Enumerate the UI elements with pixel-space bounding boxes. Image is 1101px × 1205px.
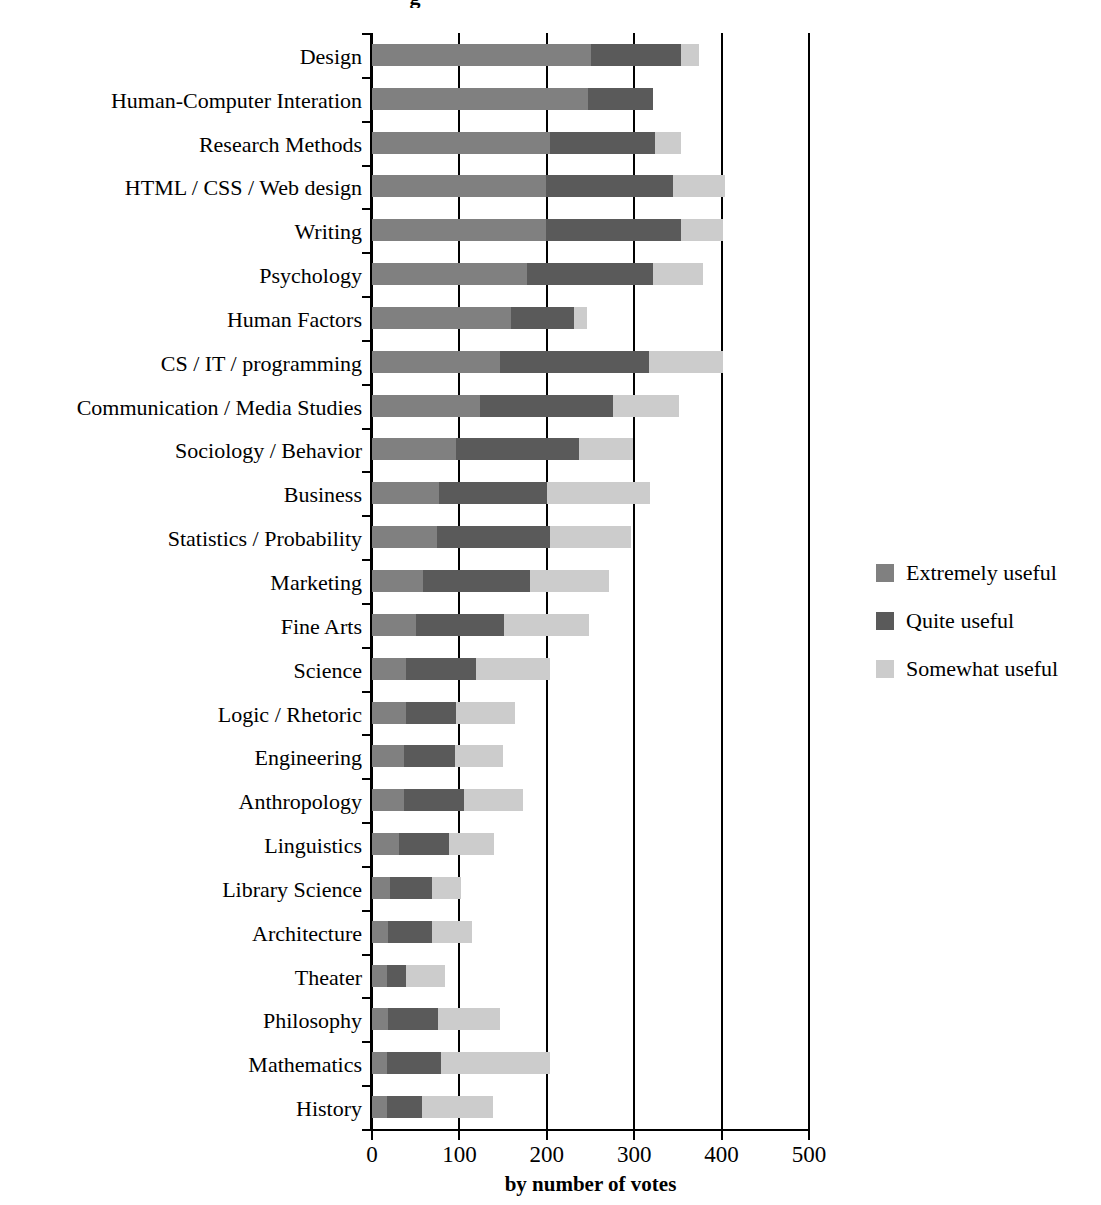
bar-segment[interactable]: [527, 263, 654, 285]
legend-item[interactable]: Somewhat useful: [876, 656, 1101, 682]
bar-segment[interactable]: [371, 833, 399, 855]
bar-segment[interactable]: [673, 175, 725, 197]
bar-segment[interactable]: [371, 132, 550, 154]
bar-segment[interactable]: [388, 1008, 438, 1030]
bar-segment[interactable]: [387, 1052, 441, 1074]
bar-segment[interactable]: [456, 702, 515, 724]
bar-group[interactable]: [371, 570, 609, 592]
bar-segment[interactable]: [500, 351, 649, 373]
bar-group[interactable]: [371, 789, 523, 811]
bar-group[interactable]: [371, 482, 650, 504]
bar-group[interactable]: [371, 219, 723, 241]
bar-segment[interactable]: [455, 745, 503, 767]
bar-segment[interactable]: [371, 219, 546, 241]
bar-segment[interactable]: [371, 614, 416, 636]
bar-segment[interactable]: [371, 921, 388, 943]
bar-segment[interactable]: [437, 526, 551, 548]
bar-segment[interactable]: [550, 132, 655, 154]
bar-segment[interactable]: [591, 44, 681, 66]
bar-group[interactable]: [371, 88, 653, 110]
bar-group[interactable]: [371, 877, 461, 899]
bar-segment[interactable]: [530, 570, 609, 592]
bar-segment[interactable]: [406, 965, 445, 987]
bar-group[interactable]: [371, 1008, 500, 1030]
bar-group[interactable]: [371, 702, 515, 724]
bar-segment[interactable]: [613, 395, 679, 417]
bar-segment[interactable]: [371, 745, 404, 767]
bar-group[interactable]: [371, 526, 631, 548]
bar-group[interactable]: [371, 307, 587, 329]
bar-segment[interactable]: [371, 1096, 387, 1118]
bar-segment[interactable]: [438, 1008, 500, 1030]
bar-segment[interactable]: [588, 88, 654, 110]
bar-segment[interactable]: [371, 789, 404, 811]
bar-group[interactable]: [371, 921, 472, 943]
bar-segment[interactable]: [432, 921, 471, 943]
bar-segment[interactable]: [422, 1096, 494, 1118]
bar-segment[interactable]: [387, 965, 406, 987]
bar-segment[interactable]: [476, 658, 550, 680]
bar-segment[interactable]: [681, 219, 723, 241]
bar-segment[interactable]: [371, 175, 546, 197]
bar-segment[interactable]: [441, 1052, 550, 1074]
bar-segment[interactable]: [371, 877, 390, 899]
bar-group[interactable]: [371, 263, 703, 285]
bar-segment[interactable]: [456, 438, 579, 460]
bar-group[interactable]: [371, 1096, 493, 1118]
bar-segment[interactable]: [439, 482, 547, 504]
bar-segment[interactable]: [371, 526, 437, 548]
bar-segment[interactable]: [504, 614, 590, 636]
bar-segment[interactable]: [464, 789, 523, 811]
bar-segment[interactable]: [371, 88, 588, 110]
bar-segment[interactable]: [371, 395, 480, 417]
bar-segment[interactable]: [579, 438, 633, 460]
bar-segment[interactable]: [480, 395, 613, 417]
bar-segment[interactable]: [574, 307, 587, 329]
bar-segment[interactable]: [371, 438, 456, 460]
bar-segment[interactable]: [655, 132, 681, 154]
bar-segment[interactable]: [681, 44, 698, 66]
bar-segment[interactable]: [406, 658, 476, 680]
bar-segment[interactable]: [399, 833, 449, 855]
bar-group[interactable]: [371, 351, 723, 373]
bar-group[interactable]: [371, 132, 681, 154]
bar-segment[interactable]: [546, 219, 681, 241]
bar-segment[interactable]: [416, 614, 503, 636]
bar-segment[interactable]: [371, 658, 406, 680]
bar-segment[interactable]: [390, 877, 432, 899]
bar-segment[interactable]: [550, 526, 630, 548]
bar-group[interactable]: [371, 833, 494, 855]
bar-group[interactable]: [371, 175, 725, 197]
bar-segment[interactable]: [371, 965, 387, 987]
bar-segment[interactable]: [371, 263, 527, 285]
bar-segment[interactable]: [371, 1052, 387, 1074]
bar-group[interactable]: [371, 745, 503, 767]
bar-group[interactable]: [371, 1052, 550, 1074]
legend-item[interactable]: Quite useful: [876, 608, 1101, 634]
bar-group[interactable]: [371, 965, 445, 987]
bar-segment[interactable]: [371, 702, 406, 724]
bar-group[interactable]: [371, 44, 699, 66]
bar-segment[interactable]: [423, 570, 530, 592]
bar-segment[interactable]: [387, 1096, 422, 1118]
bar-segment[interactable]: [432, 877, 461, 899]
bar-group[interactable]: [371, 438, 633, 460]
bar-segment[interactable]: [406, 702, 456, 724]
bar-segment[interactable]: [371, 570, 423, 592]
bar-segment[interactable]: [404, 789, 463, 811]
bar-segment[interactable]: [404, 745, 455, 767]
bar-segment[interactable]: [547, 482, 650, 504]
bar-segment[interactable]: [653, 263, 703, 285]
bar-group[interactable]: [371, 614, 590, 636]
bar-group[interactable]: [371, 395, 679, 417]
bar-segment[interactable]: [371, 44, 591, 66]
bar-group[interactable]: [371, 658, 550, 680]
bar-segment[interactable]: [511, 307, 574, 329]
legend-item[interactable]: Extremely useful: [876, 560, 1101, 586]
bar-segment[interactable]: [388, 921, 432, 943]
bar-segment[interactable]: [546, 175, 673, 197]
bar-segment[interactable]: [371, 307, 511, 329]
bar-segment[interactable]: [371, 351, 500, 373]
bar-segment[interactable]: [449, 833, 494, 855]
bar-segment[interactable]: [371, 482, 439, 504]
